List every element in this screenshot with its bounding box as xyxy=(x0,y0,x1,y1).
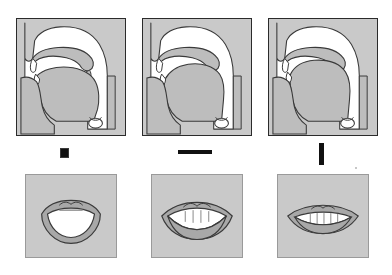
pharyngeal-wall-1 xyxy=(107,76,115,129)
phonetics-figure xyxy=(0,0,392,275)
sagittal-section-mid-vowel xyxy=(142,18,252,136)
symbol-label-row-2 xyxy=(136,142,258,170)
sagittal-section-open-vowel xyxy=(16,18,126,136)
lips-diagram-3-svg xyxy=(278,175,368,257)
sagittal-diagram-3-svg xyxy=(269,19,377,135)
lips-mid-spread xyxy=(151,174,243,258)
vowel-column-2 xyxy=(136,0,258,275)
symbol-label-row-1 xyxy=(10,142,132,170)
symbol-label-row-3 xyxy=(262,142,384,170)
phonetic-symbol-3 xyxy=(319,143,324,165)
sagittal-diagram-1-svg xyxy=(17,19,125,135)
lips-diagram-2-svg xyxy=(152,175,242,257)
phonetic-symbol-1 xyxy=(60,148,69,158)
lips-open-rounded xyxy=(25,174,117,258)
sagittal-diagram-2-svg xyxy=(143,19,251,135)
pharyngeal-wall-2 xyxy=(233,76,241,129)
scan-artifact-speck xyxy=(355,167,357,169)
vowel-column-3 xyxy=(262,0,384,275)
pharyngeal-wall-3 xyxy=(359,76,367,129)
sagittal-section-close-front-vowel xyxy=(268,18,378,136)
tongue-body-3 xyxy=(290,60,350,121)
tongue-body-2 xyxy=(164,64,224,122)
lips-diagram-1-svg xyxy=(26,175,116,257)
vowel-column-1 xyxy=(10,0,132,275)
tongue-body-1 xyxy=(37,67,99,121)
phonetic-symbol-2 xyxy=(178,150,212,154)
lips-narrow-spread xyxy=(277,174,369,258)
